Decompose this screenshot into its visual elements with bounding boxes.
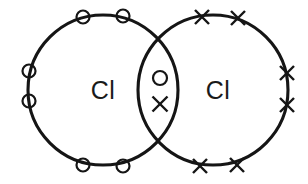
molecule-canvas: Cl Cl xyxy=(0,0,308,184)
shared-electron-dot xyxy=(153,71,167,85)
electron-dot xyxy=(77,159,90,172)
right-atom-label: Cl xyxy=(206,76,231,104)
left-atom-label: Cl xyxy=(91,76,116,104)
shared-electron-cross xyxy=(153,97,168,112)
lewis-dot-cross-diagram: Cl Cl xyxy=(0,0,308,184)
shared-electron-pair xyxy=(153,71,168,112)
